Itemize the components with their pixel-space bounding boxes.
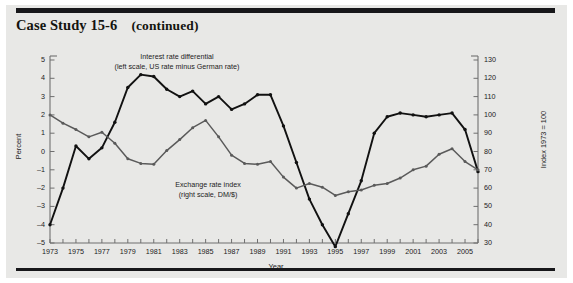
data-point — [139, 73, 142, 76]
right-tick-label: 70 — [484, 165, 508, 174]
x-tick-label: 2005 — [448, 247, 482, 256]
right-tick-label: 120 — [484, 73, 508, 82]
data-point — [100, 146, 103, 149]
data-point — [464, 160, 467, 163]
series-interest-rate-differential — [48, 73, 479, 248]
data-point — [243, 162, 246, 165]
data-point — [165, 149, 168, 152]
data-point — [256, 93, 259, 96]
data-point — [74, 128, 77, 131]
data-point — [204, 119, 207, 122]
data-point — [282, 124, 285, 127]
annotation-exchange-line2: (right scale, DM/$) — [118, 190, 298, 200]
data-point — [438, 153, 441, 156]
annotation-interest-line1: Interest rate differential — [62, 52, 292, 62]
data-point — [139, 162, 142, 165]
data-point — [308, 182, 311, 185]
data-point — [373, 184, 376, 187]
left-axis-title: Percent — [14, 120, 23, 174]
right-tick-label: 90 — [484, 128, 508, 137]
data-point — [113, 142, 116, 145]
right-axis-title: Index 1973 = 100 — [539, 97, 548, 183]
left-tick-label: –5 — [23, 238, 45, 247]
data-point — [113, 121, 116, 124]
data-point — [126, 86, 129, 89]
data-point — [230, 154, 233, 157]
data-point — [152, 163, 155, 166]
right-tick-label: 60 — [484, 183, 508, 192]
data-point — [191, 126, 194, 129]
data-point — [308, 197, 311, 200]
data-point — [295, 161, 298, 164]
data-point — [450, 111, 453, 114]
data-point — [178, 95, 181, 98]
right-tick-label: 130 — [484, 55, 508, 64]
series-line — [50, 75, 478, 247]
data-point — [217, 135, 220, 138]
annotation-interest-rate: Interest rate differential (left scale, … — [62, 52, 292, 72]
x-axis-title: Year — [236, 262, 316, 271]
data-point — [424, 115, 427, 118]
data-point — [126, 157, 129, 160]
data-point — [204, 102, 207, 105]
data-point — [217, 95, 220, 98]
data-point — [437, 113, 440, 116]
data-point — [165, 88, 168, 91]
data-point — [463, 128, 466, 131]
data-point — [87, 157, 90, 160]
data-point — [334, 194, 337, 197]
left-tick-label: 5 — [23, 55, 45, 64]
data-point — [360, 188, 363, 191]
data-point — [373, 132, 376, 135]
right-tick-label: 30 — [484, 238, 508, 247]
data-point — [191, 89, 194, 92]
left-tick-label: –2 — [23, 183, 45, 192]
data-point — [74, 144, 77, 147]
left-tick-label: 2 — [23, 110, 45, 119]
annotation-exchange-line1: Exchange rate index — [118, 180, 298, 190]
data-point — [230, 108, 233, 111]
left-tick-label: –1 — [23, 165, 45, 174]
right-tick-label: 110 — [484, 92, 508, 101]
data-point — [412, 168, 415, 171]
figure-page: Case Study 15-6(continued) Interest rate… — [0, 0, 573, 283]
data-point — [269, 160, 272, 163]
left-tick-label: –3 — [23, 201, 45, 210]
data-point — [61, 122, 64, 125]
right-tick-label: 100 — [484, 110, 508, 119]
annotation-exchange-rate: Exchange rate index (right scale, DM/$) — [118, 180, 298, 200]
data-point — [243, 102, 246, 105]
data-point — [178, 138, 181, 141]
left-tick-label: 3 — [23, 92, 45, 101]
data-point — [451, 147, 454, 150]
data-point — [398, 111, 401, 114]
left-tick-label: 0 — [23, 147, 45, 156]
right-tick-label: 80 — [484, 147, 508, 156]
data-point — [399, 177, 402, 180]
data-point — [321, 223, 324, 226]
data-point — [152, 75, 155, 78]
data-point — [386, 182, 389, 185]
right-tick-label: 50 — [484, 201, 508, 210]
data-point — [87, 135, 90, 138]
data-point — [477, 168, 480, 171]
left-tick-label: 4 — [23, 73, 45, 82]
annotation-interest-line2: (left scale, US rate minus German rate) — [62, 62, 292, 72]
data-point — [347, 212, 350, 215]
data-point — [425, 165, 428, 168]
data-point — [256, 163, 259, 166]
data-point — [347, 190, 350, 193]
data-point — [48, 223, 51, 226]
data-point — [411, 113, 414, 116]
data-point — [100, 131, 103, 134]
data-point — [360, 179, 363, 182]
left-tick-label: –4 — [23, 220, 45, 229]
left-tick-label: 1 — [23, 128, 45, 137]
data-point — [61, 186, 64, 189]
data-point — [321, 186, 324, 189]
right-tick-label: 40 — [484, 220, 508, 229]
data-point — [386, 115, 389, 118]
data-point — [269, 93, 272, 96]
data-point — [282, 176, 285, 179]
data-point — [49, 113, 52, 116]
